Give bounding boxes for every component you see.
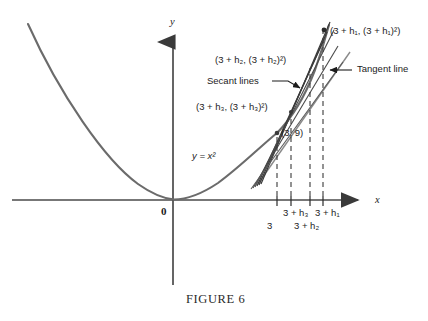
tick-label-h2: 3 + h₂ — [294, 221, 319, 231]
secant-line-extra-b — [253, 46, 338, 188]
point-label-h1: (3 + h₁, (3 + h₁)²) — [330, 26, 400, 36]
figure-caption: FIGURE 6 — [186, 292, 245, 307]
point-h1 — [322, 28, 327, 33]
origin-label: 0 — [161, 205, 167, 217]
tick-label-h3: 3 + h₃ — [283, 208, 308, 218]
point-label-h3: (3 + h₃, (3 + h₃)²) — [196, 102, 268, 112]
secant-leader-arrow — [272, 81, 300, 88]
secant-line-extra-c — [251, 62, 343, 189]
figure-container: x y 0 (3 + h₁, (3 + h₁)²) (3 + h₂, (3 + … — [0, 0, 428, 321]
tick-label-h1: 3 + h₁ — [315, 208, 340, 218]
y-axis-label: y — [170, 16, 175, 27]
x-axis-label: x — [375, 194, 380, 205]
tick-label-3: 3 — [267, 221, 272, 231]
secant-lines-label: Secant lines — [207, 76, 259, 86]
tangent-line-label: Tangent line — [357, 64, 408, 74]
point-label-base: (3, 9) — [281, 128, 303, 138]
point-label-h2: (3 + h₂, (3 + h₂)²) — [215, 55, 286, 65]
curve-equation-label: y = x² — [192, 151, 216, 161]
parabola-curve — [28, 24, 329, 200]
